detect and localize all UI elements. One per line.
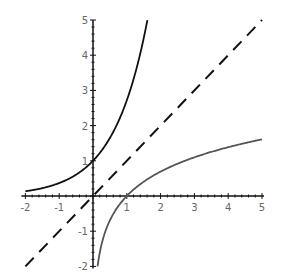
x-tick-label: -2 <box>20 202 30 213</box>
x-tick-label: 3 <box>191 202 197 213</box>
chart: -2-112345-2-112345 <box>0 0 284 279</box>
x-tick-label: 1 <box>124 202 130 213</box>
series-y-x-line <box>25 20 262 266</box>
y-tick-label: -1 <box>78 226 88 237</box>
x-tick-label: 2 <box>157 202 163 213</box>
y-tick-label: 5 <box>82 15 88 26</box>
series-group <box>25 20 262 266</box>
y-tick-label: 1 <box>82 156 88 167</box>
x-tick-label: -1 <box>54 202 64 213</box>
y-tick-label: 3 <box>82 85 88 96</box>
x-tick-label: 4 <box>225 202 231 213</box>
series-ln-x-line <box>98 139 262 266</box>
y-tick-label: 4 <box>82 50 88 61</box>
x-tick-label: 5 <box>259 202 265 213</box>
y-tick-label: 2 <box>82 121 88 132</box>
y-tick-label: -2 <box>78 261 88 272</box>
